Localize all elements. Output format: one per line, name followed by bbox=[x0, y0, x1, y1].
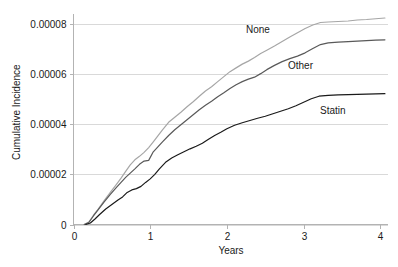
y-tick-label-2: 0.00004 bbox=[30, 119, 67, 130]
y-tick-label-0: 0 bbox=[61, 220, 67, 231]
x-tick-label-3: 3 bbox=[302, 231, 308, 242]
series-annotation-other: Other bbox=[288, 60, 314, 71]
series-annotation-statin: Statin bbox=[320, 105, 346, 116]
x-axis-title: Years bbox=[218, 245, 243, 256]
series-annotation-none: None bbox=[246, 24, 270, 35]
x-tick-label-4: 4 bbox=[378, 231, 384, 242]
x-tick-label-2: 2 bbox=[225, 231, 231, 242]
chart-container: 00.000020.000040.000060.00008 01234 None… bbox=[0, 0, 398, 267]
cumulative-incidence-line-chart: 00.000020.000040.000060.00008 01234 None… bbox=[0, 0, 398, 267]
x-tick-label-1: 1 bbox=[148, 231, 154, 242]
chart-background bbox=[0, 0, 398, 267]
x-tick-label-0: 0 bbox=[72, 231, 78, 242]
y-tick-label-3: 0.00006 bbox=[30, 69, 67, 80]
y-tick-label-1: 0.00002 bbox=[30, 169, 67, 180]
y-tick-label-4: 0.00008 bbox=[30, 19, 67, 30]
y-axis-title: Cumulative Incidence bbox=[11, 64, 22, 160]
